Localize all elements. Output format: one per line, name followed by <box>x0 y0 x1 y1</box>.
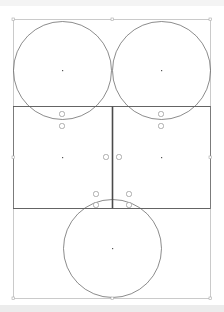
connection-point-icon[interactable] <box>127 192 132 197</box>
resize-handle-icon[interactable] <box>12 18 15 21</box>
center-point-icon <box>161 157 162 158</box>
connection-point-icon[interactable] <box>60 112 65 117</box>
center-point-icon <box>112 248 113 249</box>
connection-point-icon[interactable] <box>159 124 164 129</box>
resize-handle-icon[interactable] <box>209 18 212 21</box>
divider-layer <box>13 106 211 209</box>
center-point-icon <box>62 157 63 158</box>
connection-point-icon[interactable] <box>60 124 65 129</box>
diagram-svg[interactable] <box>0 0 224 312</box>
resize-handle-icon[interactable] <box>111 18 114 21</box>
drawing-canvas[interactable] <box>0 0 224 312</box>
connection-point-icon[interactable] <box>117 155 122 160</box>
connection-point-icon[interactable] <box>94 192 99 197</box>
center-point-icon <box>161 70 162 71</box>
resize-handle-icon[interactable] <box>111 297 114 300</box>
connection-point-icon[interactable] <box>104 155 109 160</box>
connection-markers-layer <box>60 112 164 208</box>
center-point-icon <box>62 70 63 71</box>
connection-point-icon[interactable] <box>127 203 132 208</box>
connection-point-icon[interactable] <box>159 112 164 117</box>
resize-handle-icon[interactable] <box>12 156 15 159</box>
resize-handle-icon[interactable] <box>209 297 212 300</box>
resize-handle-icon[interactable] <box>209 156 212 159</box>
resize-handle-icon[interactable] <box>12 297 15 300</box>
bottom-status-strip <box>0 305 224 312</box>
connection-point-icon[interactable] <box>94 203 99 208</box>
